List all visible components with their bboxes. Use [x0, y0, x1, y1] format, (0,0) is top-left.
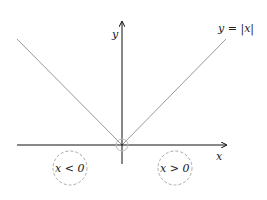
function-label: y = |x|	[217, 22, 254, 36]
x-axis-label: x	[216, 150, 223, 163]
graph-right-branch	[122, 39, 226, 145]
graph-left-branch	[17, 39, 122, 145]
right-region-label: x > 0	[160, 162, 189, 175]
y-axis-label: y	[111, 28, 119, 41]
abs-value-diagram: y x y = |x| x < 0 x > 0	[0, 0, 267, 200]
left-region-label: x < 0	[55, 162, 84, 175]
